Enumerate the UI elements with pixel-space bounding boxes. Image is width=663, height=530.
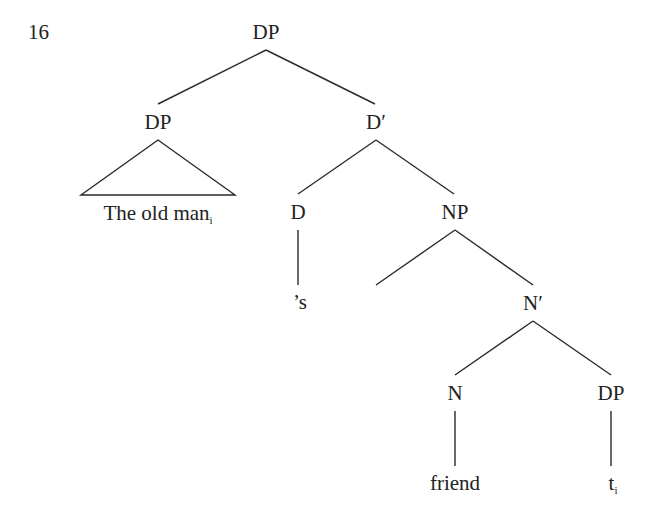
branch-dbar-to-np (376, 140, 454, 194)
terminal-text: The old man (103, 201, 209, 225)
node-np: NP (442, 202, 469, 223)
node-d-head: D (290, 202, 305, 223)
tree-branches (0, 0, 663, 530)
terminal-possessive-s: ’s (293, 292, 307, 313)
branch-nbar-to-n (455, 321, 533, 375)
branch-root-to-spec-dp (158, 50, 266, 104)
node-complement-dp: DP (598, 383, 625, 404)
terminal-trace: ti (609, 473, 618, 496)
branch-dbar-to-d (298, 140, 376, 194)
terminal-the-old-man: The old mani (103, 203, 212, 226)
index-subscript: i (614, 484, 617, 496)
branch-nbar-to-dp (533, 321, 611, 375)
node-n-bar: N′ (523, 293, 543, 314)
node-spec-dp: DP (145, 112, 172, 133)
index-subscript: i (210, 214, 213, 226)
spec-dp-triangle (81, 140, 235, 195)
node-d-bar: D′ (366, 112, 386, 133)
example-number: 16 (28, 22, 49, 43)
branch-np-empty-spec (376, 230, 455, 285)
terminal-friend: friend (430, 473, 480, 494)
branch-np-to-nbar (455, 230, 533, 285)
node-n-head: N (447, 383, 462, 404)
node-root-dp: DP (253, 22, 280, 43)
branch-root-to-dbar (266, 50, 375, 104)
